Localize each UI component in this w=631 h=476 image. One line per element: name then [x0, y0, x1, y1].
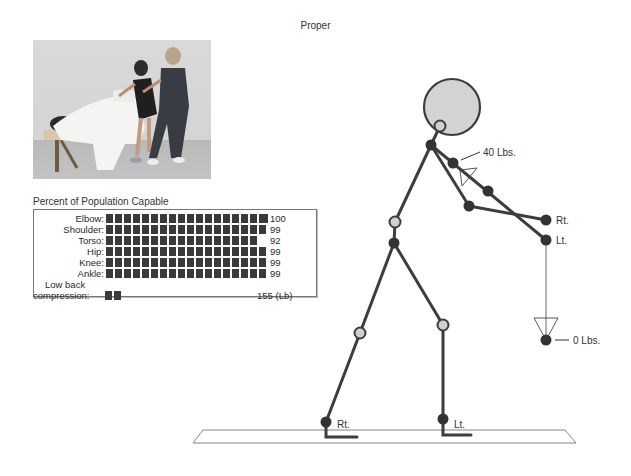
joints-dark: [321, 140, 552, 428]
left-ankle-joint: [438, 414, 449, 425]
hand-force-leader: [461, 152, 480, 160]
left-hand-joint: [541, 235, 552, 246]
right-elbow-joint: [464, 201, 475, 212]
hand-right-label: Rt.: [556, 215, 569, 226]
right-hand-joint: [541, 215, 552, 226]
right-ankle-joint: [321, 417, 332, 428]
left-elbow-joint: [483, 186, 494, 197]
weight-joint: [541, 335, 552, 346]
low-back-joint: [390, 217, 401, 228]
foot-left-label: Lt.: [454, 419, 465, 430]
foot-right-label: Rt.: [337, 419, 350, 430]
hand-force-label: 40 Lbs.: [483, 147, 516, 158]
hip-joint: [389, 238, 400, 249]
left-knee-joint: [438, 320, 449, 331]
limbs: [326, 126, 546, 437]
hand-left-label: Lt.: [556, 235, 567, 246]
posture-stick-figure: 40 Lbs. Rt. Lt. 0 Lbs. Rt. Lt.: [0, 0, 631, 476]
weight-label: 0 Lbs.: [573, 335, 600, 346]
right-knee-joint: [355, 328, 366, 339]
head: [424, 79, 480, 135]
neck-joint: [435, 121, 446, 132]
upper-arm-joint: [448, 158, 459, 169]
shoulder-joint: [426, 140, 437, 151]
floor-plane: [193, 430, 576, 443]
